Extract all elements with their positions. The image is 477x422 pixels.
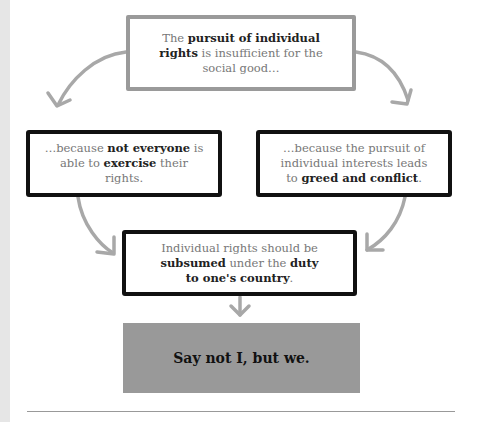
- conclusion-premise-box: Individual rights should be subsumed und…: [122, 230, 357, 296]
- text-segment: …because: [45, 141, 108, 155]
- reason-left-box: …because not everyone is able to exercis…: [26, 130, 222, 197]
- arrow-right-to-center: [367, 197, 405, 250]
- conclusion-banner: Say not I, but we.: [123, 323, 360, 393]
- arrow-top-to-left: [58, 52, 126, 105]
- text-segment: under the: [226, 256, 290, 270]
- text-segment: .: [290, 271, 294, 285]
- conclusion-premise-text: Individual rights should be subsumed und…: [160, 241, 320, 286]
- reason-right-text: …because the pursuit of individual inter…: [274, 141, 434, 186]
- bold-segment: greed and conflict: [301, 171, 418, 185]
- arrow-top-to-right: [356, 52, 408, 100]
- reason-left-text: …because not everyone is able to exercis…: [40, 141, 208, 186]
- text-segment: is insufficient for the social good…: [198, 46, 323, 75]
- bold-segment: exercise: [104, 156, 157, 170]
- reason-right-box: …because the pursuit of individual inter…: [256, 130, 452, 197]
- bottom-divider: [27, 411, 455, 412]
- text-segment: .: [418, 171, 422, 185]
- premise-text: The pursuit of individual rights is insu…: [141, 31, 341, 76]
- bold-segment: subsumed: [161, 256, 226, 270]
- arrow-left-to-center: [78, 197, 113, 253]
- premise-box: The pursuit of individual rights is insu…: [126, 15, 356, 91]
- bold-segment: not everyone: [107, 141, 190, 155]
- text-segment: Individual rights should be: [161, 241, 318, 255]
- text-segment: The: [162, 31, 188, 45]
